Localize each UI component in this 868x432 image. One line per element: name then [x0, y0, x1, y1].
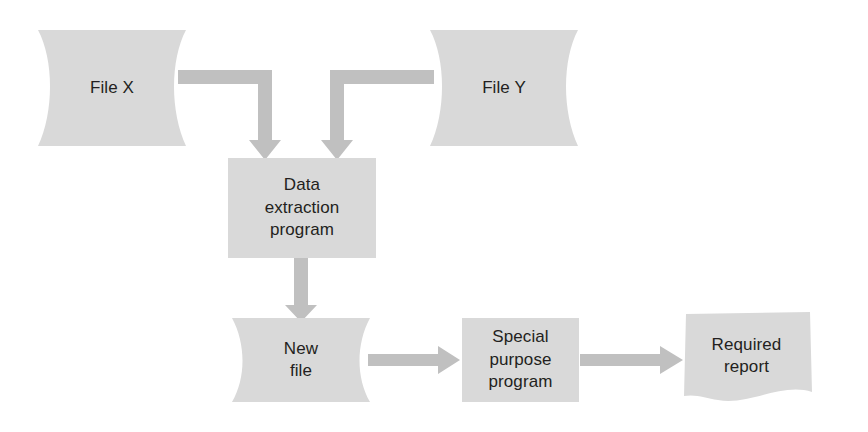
shape-file-y — [430, 30, 578, 146]
connector-filex-to-extract — [178, 70, 281, 160]
connector-newfile-to-special — [368, 346, 460, 374]
shape-file-x — [38, 30, 186, 146]
shape-new-file — [232, 318, 370, 402]
connector-extract-to-newfile — [285, 256, 317, 322]
connector-filey-to-extract — [321, 70, 434, 160]
connector-special-to-report — [580, 346, 683, 374]
shape-required-report — [684, 312, 812, 401]
flowchart-diagram: File X File Y Data extraction program Ne… — [0, 0, 868, 432]
diagram-shapes-layer — [0, 0, 868, 432]
shape-data-extraction-program — [228, 158, 376, 258]
shape-special-purpose-program — [462, 318, 579, 402]
